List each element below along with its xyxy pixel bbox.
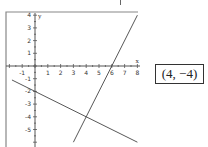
x-tick-label: 4 <box>84 69 88 76</box>
x-tick-label: 5 <box>97 69 101 76</box>
line-series-1 <box>73 15 137 142</box>
x-tick-label: 6 <box>110 69 114 76</box>
x-tick-label: 2 <box>59 69 63 76</box>
y-tick-label: -3 <box>25 100 31 107</box>
x-tick-label: 3 <box>71 69 75 76</box>
y-tick-label: -4 <box>25 113 31 120</box>
y-tick-label: -1 <box>25 75 31 82</box>
line-series-2 <box>12 80 137 142</box>
answer-text: (4, −4) <box>162 66 198 82</box>
answer-box: (4, −4) <box>155 64 204 84</box>
x-tick-label: 1 <box>46 69 50 76</box>
y-tick-label: 2 <box>27 37 31 44</box>
y-axis-label: y <box>37 12 42 20</box>
x-axis-label: x <box>135 57 139 64</box>
y-tick-label: -5 <box>25 126 31 133</box>
y-tick-label: 1 <box>27 49 31 56</box>
y-tick-label: 4 <box>27 11 31 18</box>
x-tick-label: 8 <box>135 69 139 76</box>
x-tick-label: 7 <box>123 69 127 76</box>
y-tick-label: 3 <box>27 24 31 31</box>
coordinate-graph: -1123456784321-1-2-3-4-5yx <box>0 0 150 147</box>
